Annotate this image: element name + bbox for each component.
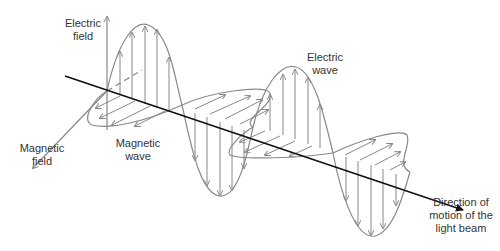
label-line: Magnetic (12, 142, 72, 155)
label-line: field (58, 30, 108, 43)
label-line: Magnetic (108, 137, 168, 150)
label-line: Direction of (422, 196, 500, 209)
electric-wave-envelope (107, 24, 410, 236)
label-line: Electric (58, 17, 108, 30)
label-electric-field: Electric field (58, 17, 108, 43)
label-direction: Direction of motion of the light beam (422, 196, 500, 235)
electric-wave-vectors (120, 27, 396, 235)
label-line: Electric (300, 51, 350, 64)
label-line: wave (300, 64, 350, 77)
label-line: field (12, 155, 72, 168)
label-line: motion of the (422, 209, 500, 222)
label-line: wave (108, 150, 168, 163)
label-electric-wave: Electric wave (300, 51, 350, 77)
magnetic-field-axis-dashed (107, 70, 142, 91)
label-magnetic-field: Magnetic field (12, 142, 72, 168)
label-line: light beam (422, 222, 500, 235)
label-magnetic-wave: Magnetic wave (108, 137, 168, 163)
